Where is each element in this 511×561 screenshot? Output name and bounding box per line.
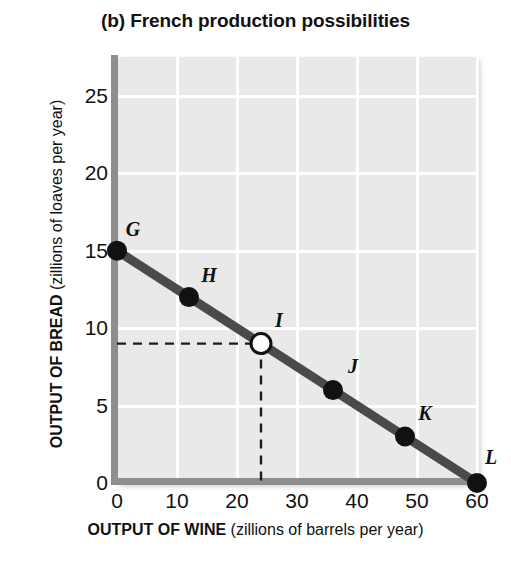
point-label-k: K bbox=[418, 401, 431, 424]
x-axis-tick-labels: 0102030405060 bbox=[0, 0, 511, 561]
point-label-l: L bbox=[485, 446, 497, 469]
y-axis-title-bold: OUTPUT OF BREAD bbox=[48, 294, 65, 448]
point-label-i: I bbox=[275, 308, 283, 331]
x-tick-label: 60 bbox=[452, 489, 502, 513]
chart-figure: (b) French production possibilities 0510… bbox=[0, 0, 511, 561]
x-tick-label: 20 bbox=[212, 489, 262, 513]
point-label-h: H bbox=[201, 264, 217, 287]
x-axis-title: OUTPUT OF WINE (zillions of barrels per … bbox=[0, 521, 511, 539]
point-label-g: G bbox=[126, 217, 140, 240]
x-tick-label: 30 bbox=[272, 489, 322, 513]
x-tick-label: 50 bbox=[392, 489, 442, 513]
x-axis-title-bold: OUTPUT OF WINE bbox=[87, 521, 226, 538]
x-tick-label: 0 bbox=[92, 489, 142, 513]
point-label-j: J bbox=[348, 355, 358, 378]
x-tick-label: 40 bbox=[332, 489, 382, 513]
y-axis-title-rest: (zillions of loaves per year) bbox=[48, 100, 65, 295]
x-tick-label: 10 bbox=[152, 489, 202, 513]
y-axis-title: OUTPUT OF BREAD (zillions of loaves per … bbox=[48, 74, 66, 474]
x-axis-title-rest: (zillions of barrels per year) bbox=[226, 521, 423, 538]
